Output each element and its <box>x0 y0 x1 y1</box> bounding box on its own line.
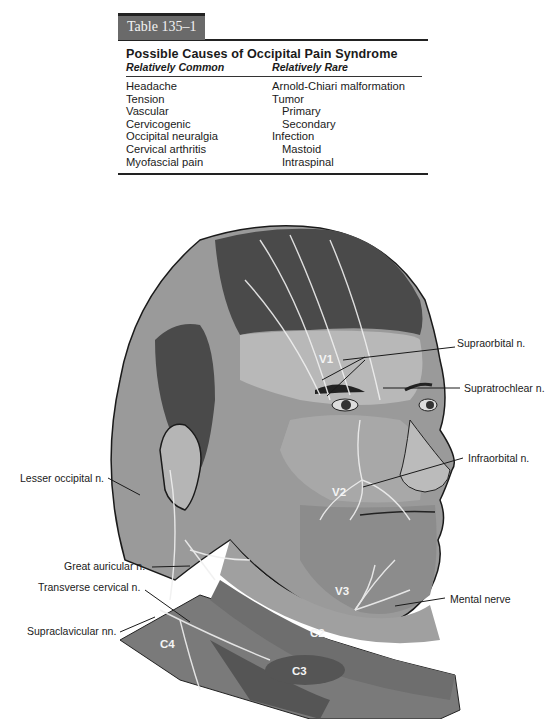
table-cell: Cervical arthritis <box>126 143 272 156</box>
table-number-tag: Table 135–1 <box>118 13 205 40</box>
table-cell: Occipital neuralgia <box>126 130 272 143</box>
table-cell: Secondary <box>272 118 405 131</box>
table-cell: Cervicogenic <box>126 118 272 131</box>
column-header-common: Relatively Common <box>126 61 272 73</box>
table-cell: Mastoid <box>272 143 405 156</box>
table-cell: Primary <box>272 105 405 118</box>
zone-c3: C3 <box>292 665 307 677</box>
label-infraorbital-nerve: Infraorbital n. <box>468 452 529 464</box>
table-cell: Infection <box>272 130 405 143</box>
label-transverse-cervical-nerve: Transverse cervical n. <box>38 581 140 593</box>
table-body: Headache Tension Vascular Cervicogenic O… <box>126 80 428 168</box>
table-header-rule <box>126 76 422 77</box>
table-cell: Headache <box>126 80 272 93</box>
table-cell: Arnold-Chiari malformation <box>272 80 405 93</box>
head-dermatome-illustration: Supraorbital n. Supratrochlear n. Infrao… <box>0 205 553 719</box>
column-rare: Arnold-Chiari malformation Tumor Primary… <box>272 80 405 168</box>
zone-v2: V2 <box>332 486 346 498</box>
label-lesser-occipital-nerve: Lesser occipital n. <box>20 472 104 484</box>
table-column-headers: Relatively Common Relatively Rare <box>126 61 428 73</box>
label-supraorbital-nerve: Supraorbital n. <box>457 337 525 349</box>
zone-v3: V3 <box>335 585 349 597</box>
table-bottom-rule <box>118 173 428 175</box>
zone-c2: C2 <box>310 627 325 639</box>
table-cell: Intraspinal <box>272 156 405 169</box>
zone-v1: V1 <box>319 353 333 365</box>
table-cell: Vascular <box>126 105 272 118</box>
table-cell: Myofascial pain <box>126 156 272 169</box>
label-mental-nerve: Mental nerve <box>450 593 511 605</box>
table-cell: Tension <box>126 93 272 106</box>
label-supraclavicular-nerves: Supraclavicular nn. <box>27 625 116 637</box>
label-supratrochlear-nerve: Supratrochlear n. <box>464 382 545 394</box>
column-header-rare: Relatively Rare <box>272 61 348 73</box>
table-title: Possible Causes of Occipital Pain Syndro… <box>126 47 428 61</box>
table-135-1: Table 135–1 Possible Causes of Occipital… <box>118 13 428 175</box>
label-great-auricular-nerve: Great auricular n. <box>64 560 145 572</box>
column-common: Headache Tension Vascular Cervicogenic O… <box>126 80 272 168</box>
table-cell: Tumor <box>272 93 405 106</box>
zone-c4: C4 <box>160 638 175 650</box>
